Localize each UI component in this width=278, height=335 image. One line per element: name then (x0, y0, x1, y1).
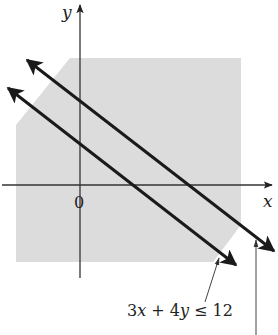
inequality-var-x: x (137, 301, 146, 320)
inequality-plus-coef-y: + 4 (146, 301, 180, 320)
shaded-region (16, 58, 241, 262)
y-axis-label: y (61, 2, 72, 22)
inequality-label: 3x + 4y ≤ 12 (127, 301, 233, 320)
inequality-coef-x: 3 (127, 301, 137, 320)
inequality-rhs: ≤ 12 (189, 301, 233, 320)
inequality-graph: y x 0 3x + 4y ≤ 12 (0, 0, 278, 335)
inequality-pointer-arrow (205, 258, 219, 302)
origin-label: 0 (74, 193, 84, 212)
x-axis-label: x (263, 191, 273, 211)
